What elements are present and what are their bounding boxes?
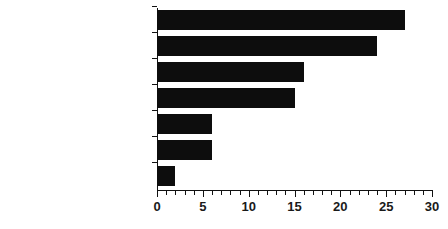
value-tick-minor [304,191,305,195]
category-tick [152,6,157,7]
value-tick-minor [258,191,259,195]
value-tick-minor [359,191,360,195]
value-tick-minor [240,191,241,195]
value-tick-major [295,191,296,197]
value-tick-label: 30 [412,199,448,215]
plot-area [157,8,432,190]
value-tick-major [340,191,341,197]
value-tick-major [432,191,433,197]
value-tick-minor [377,191,378,195]
value-tick-minor [313,191,314,195]
value-tick-minor [395,191,396,195]
value-tick-label: 5 [183,199,223,215]
value-tick-minor [194,191,195,195]
value-tick-minor [276,191,277,195]
value-tick-label: 15 [275,199,315,215]
value-tick-major [249,191,250,197]
bar [157,10,405,30]
category-tick [152,32,157,33]
value-tick-minor [230,191,231,195]
bar [157,140,212,160]
category-tick [152,136,157,137]
bar [157,166,175,186]
value-tick-minor [322,191,323,195]
bar [157,88,295,108]
value-tick-minor [350,191,351,195]
category-tick [152,162,157,163]
value-tick-minor [414,191,415,195]
value-tick-minor [166,191,167,195]
value-tick-minor [175,191,176,195]
value-tick-minor [185,191,186,195]
value-tick-major [157,191,158,197]
value-tick-major [203,191,204,197]
bar-chart: 051015202530 SupplierQualityFabricationO… [0,0,448,229]
category-tick [152,84,157,85]
bar [157,62,304,82]
value-tick-label: 20 [320,199,360,215]
value-tick-major [386,191,387,197]
value-tick-minor [267,191,268,195]
value-tick-minor [331,191,332,195]
value-tick-label: 10 [229,199,269,215]
value-tick-minor [285,191,286,195]
value-tick-minor [221,191,222,195]
category-tick [152,110,157,111]
value-tick-minor [368,191,369,195]
value-tick-minor [405,191,406,195]
bar [157,114,212,134]
value-tick-minor [423,191,424,195]
value-tick-label: 0 [137,199,177,215]
value-tick-label: 25 [366,199,406,215]
value-tick-minor [212,191,213,195]
category-tick [152,58,157,59]
bar [157,36,377,56]
